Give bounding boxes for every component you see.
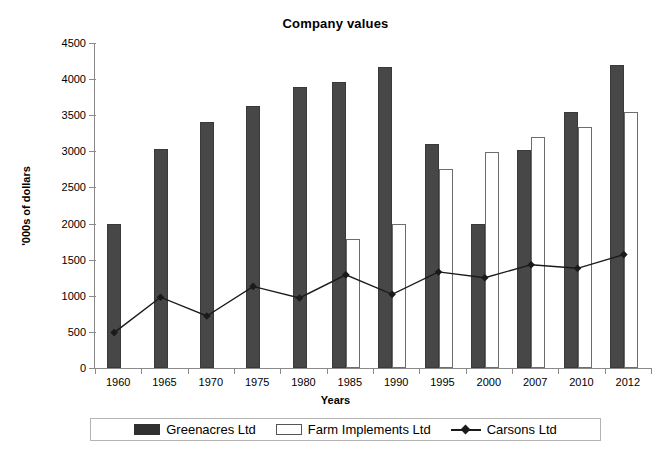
legend-item-carsons-ltd[interactable]: Carsons Ltd: [451, 422, 557, 437]
legend-label: Carsons Ltd: [487, 422, 557, 437]
x-tick: [651, 368, 652, 374]
carsons-marker-1985: [342, 271, 350, 279]
carsons-marker-1975: [249, 283, 257, 291]
y-tick-label: 2500: [62, 182, 86, 193]
carsons-marker-1990: [388, 291, 396, 299]
y-tick-label: 500: [68, 326, 86, 337]
x-tick: [558, 368, 559, 374]
chart-legend: Greenacres LtdFarm Implements LtdCarsons…: [90, 418, 601, 441]
legend-swatch-icon: [276, 424, 302, 435]
legend-swatch-icon: [134, 424, 160, 435]
x-tick: [188, 368, 189, 374]
x-tick: [605, 368, 606, 374]
carsons-marker-1995: [435, 268, 443, 276]
y-tick-label: 4000: [62, 74, 86, 85]
x-tick: [280, 368, 281, 374]
company-values-chart: Company values '000s of dollars 05001000…: [0, 0, 671, 460]
x-tick: [466, 368, 467, 374]
x-tick: [234, 368, 235, 374]
y-tick-label: 0: [80, 363, 86, 374]
carsons-marker-2010: [574, 265, 582, 273]
x-tick-label: 2012: [598, 376, 658, 388]
y-tick-label: 4500: [62, 38, 86, 49]
y-tick-label: 2000: [62, 218, 86, 229]
x-tick: [141, 368, 142, 374]
legend-item-greenacres-ltd[interactable]: Greenacres Ltd: [134, 422, 256, 437]
y-axis-label: '000s of dollars: [20, 136, 32, 276]
carsons-marker-2000: [481, 274, 489, 282]
chart-title: Company values: [0, 16, 671, 31]
x-tick: [419, 368, 420, 374]
y-tick-label: 3000: [62, 146, 86, 157]
carsons-marker-1980: [296, 294, 304, 302]
x-tick: [512, 368, 513, 374]
carsons-marker-1970: [203, 312, 211, 320]
legend-item-farm-implements-ltd[interactable]: Farm Implements Ltd: [276, 422, 431, 437]
x-tick: [373, 368, 374, 374]
y-tick-label: 1500: [62, 254, 86, 265]
x-tick: [327, 368, 328, 374]
carsons-line-series: [95, 43, 651, 368]
carsons-line-path: [114, 255, 624, 333]
legend-label: Farm Implements Ltd: [308, 422, 431, 437]
y-tick-label: 3500: [62, 110, 86, 121]
x-axis-label: Years: [0, 394, 671, 406]
legend-label: Greenacres Ltd: [166, 422, 256, 437]
x-tick: [95, 368, 96, 374]
carsons-marker-2007: [527, 261, 535, 269]
legend-swatch-icon: [451, 424, 481, 435]
carsons-marker-2012: [620, 251, 628, 259]
plot-area: 050010001500200025003000350040004500: [95, 43, 651, 368]
y-tick-label: 1000: [62, 290, 86, 301]
